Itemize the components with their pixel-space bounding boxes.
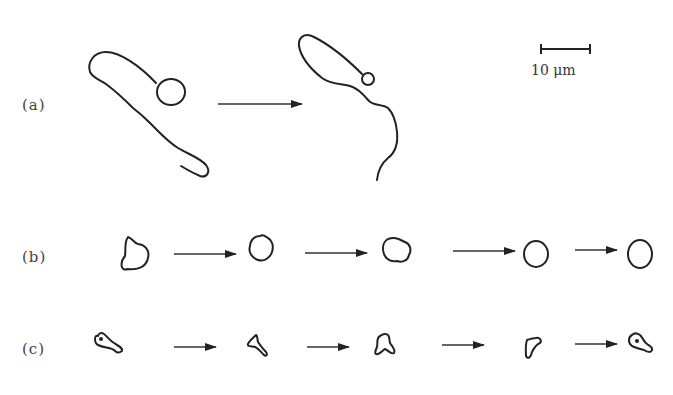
row-c-stage-3-cell bbox=[375, 334, 394, 354]
row-b-stage-4-cell bbox=[524, 241, 548, 267]
row-b-stage-3-cell bbox=[383, 238, 410, 262]
row-c-stage-5-cell bbox=[629, 334, 652, 352]
row-b-stage-1-cell bbox=[122, 237, 149, 270]
row-b-stage-5-cell bbox=[628, 240, 652, 268]
row-a-stage-1-cell bbox=[89, 52, 208, 176]
row-a-stage-2-cell bbox=[299, 35, 397, 180]
scale-bar bbox=[541, 44, 590, 54]
row-c-stage-4-cell bbox=[526, 338, 541, 358]
row-c-stage-2-cell bbox=[248, 335, 267, 356]
row-c-stage-1-cell bbox=[95, 333, 122, 353]
row-b-stage-2-cell bbox=[249, 235, 272, 260]
figure-drawing bbox=[0, 0, 673, 395]
